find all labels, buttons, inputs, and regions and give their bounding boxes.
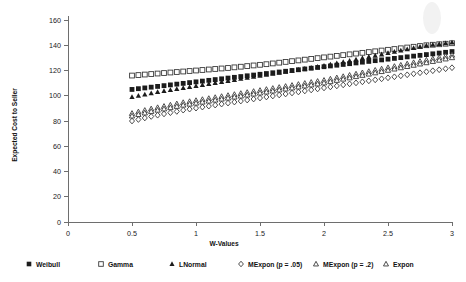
marker-filled-square — [149, 85, 154, 90]
marker-open-square — [347, 52, 352, 57]
marker-open-square — [315, 56, 320, 61]
chart-figure: 020406080100120140160 00.511.522.53 Expe… — [0, 0, 466, 282]
marker-open-square — [181, 69, 186, 74]
marker-filled-square — [162, 83, 167, 88]
y-tick-label: 140 — [49, 41, 61, 50]
marker-open-square — [238, 64, 243, 69]
marker-open-square — [296, 58, 301, 63]
marker-open-square — [149, 72, 154, 77]
scatter-plot: 020406080100120140160 00.511.522.53 Expe… — [0, 0, 466, 282]
marker-open-square — [174, 70, 179, 75]
marker-filled-square — [174, 82, 179, 87]
x-axis-title: W-Values — [209, 240, 239, 247]
legend-label: MExpon (p = .05) — [248, 261, 302, 269]
y-tick-label: 20 — [53, 192, 61, 201]
marker-filled-square — [27, 262, 32, 267]
legend-label: MExpon (p = .2) — [323, 261, 373, 269]
y-axis-title: Expected Cost to Seller — [11, 88, 19, 162]
marker-filled-square — [411, 54, 416, 59]
marker-filled-square — [181, 81, 186, 86]
x-tick-label: 1.5 — [255, 229, 265, 238]
y-tick-label: 120 — [49, 66, 61, 75]
marker-open-square — [226, 66, 231, 71]
marker-open-square — [334, 53, 339, 58]
legend-label: Expon — [393, 261, 414, 269]
x-tick-label: 2 — [322, 229, 326, 238]
legend-item-mexpon-p-05[interactable]: MExpon (p = .05) — [239, 261, 303, 269]
marker-open-square — [245, 64, 250, 69]
marker-filled-square — [360, 60, 365, 65]
marker-open-square — [142, 72, 147, 77]
marker-open-square — [322, 55, 327, 60]
x-tick-label: 2.5 — [383, 229, 393, 238]
legend-item-mexpon-p-2[interactable]: MExpon (p = .2) — [313, 261, 373, 269]
legend-label: Weibull — [36, 261, 60, 268]
marker-filled-square — [392, 56, 397, 61]
marker-filled-square — [373, 58, 378, 63]
marker-open-square — [200, 68, 205, 73]
marker-filled-square — [424, 52, 429, 57]
marker-open-square — [328, 54, 333, 59]
marker-open-square — [366, 50, 371, 55]
marker-open-square — [264, 62, 269, 67]
marker-open-square — [213, 67, 218, 72]
marker-filled-square — [386, 57, 391, 62]
legend-label: Gamma — [108, 261, 133, 268]
marker-open-square — [162, 71, 167, 76]
marker-filled-square — [366, 59, 371, 64]
y-tick-label: 60 — [53, 142, 61, 151]
marker-open-square — [341, 53, 346, 58]
marker-open-square — [232, 65, 237, 70]
marker-open-square — [251, 63, 256, 68]
x-tick-label: 3 — [450, 229, 454, 238]
y-tick-label: 100 — [49, 91, 61, 100]
scan-artifact — [423, 2, 441, 34]
y-tick-label: 160 — [49, 16, 61, 25]
marker-open-square — [219, 66, 224, 71]
marker-filled-square — [168, 82, 173, 87]
marker-open-square — [277, 60, 282, 65]
marker-open-square — [360, 50, 365, 55]
marker-filled-square — [405, 54, 410, 59]
marker-open-square — [206, 67, 211, 72]
marker-open-square — [194, 68, 199, 73]
marker-open-square — [99, 262, 104, 267]
marker-open-square — [290, 59, 295, 64]
marker-open-square — [187, 69, 192, 74]
marker-open-square — [302, 57, 307, 62]
marker-filled-square — [142, 86, 147, 91]
marker-open-square — [258, 62, 263, 67]
marker-filled-square — [155, 84, 160, 89]
marker-filled-square — [398, 55, 403, 60]
marker-open-square — [130, 73, 135, 78]
marker-open-square — [136, 73, 141, 78]
marker-open-square — [270, 61, 275, 66]
marker-open-square — [155, 71, 160, 76]
marker-filled-square — [379, 57, 384, 62]
marker-open-square — [168, 70, 173, 75]
legend-label: LNormal — [179, 261, 207, 268]
y-tick-label: 80 — [53, 117, 61, 126]
x-tick-label: 1 — [194, 229, 198, 238]
marker-open-square — [309, 56, 314, 61]
marker-filled-square — [418, 53, 423, 58]
marker-filled-square — [136, 86, 141, 91]
y-tick-label: 40 — [53, 167, 61, 176]
y-tick-label: 0 — [57, 218, 61, 227]
marker-open-square — [354, 51, 359, 56]
x-tick-label: 0.5 — [127, 229, 137, 238]
marker-filled-square — [130, 87, 135, 92]
marker-open-square — [283, 60, 288, 65]
x-tick-label: 0 — [66, 229, 70, 238]
